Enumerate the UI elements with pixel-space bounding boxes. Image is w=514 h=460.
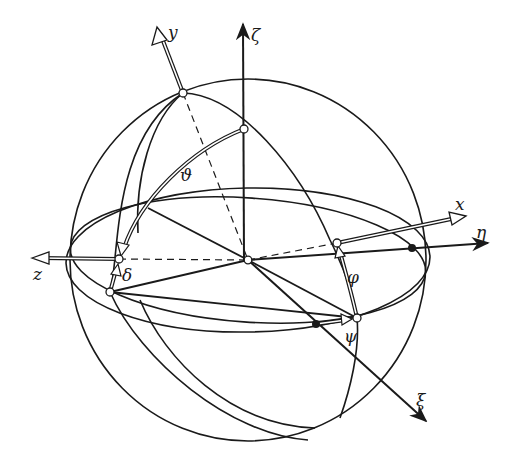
phi-label: φ — [347, 267, 359, 287]
theta-arc — [117, 129, 244, 256]
xi-node-dot — [312, 320, 320, 328]
xi-label: ξ — [416, 390, 427, 410]
zeta-axis — [243, 24, 244, 260]
y-label: y — [167, 22, 178, 42]
lower-right-point — [353, 314, 361, 322]
eta-label: η — [476, 222, 487, 242]
eta-axis — [248, 243, 488, 260]
meridian-inner — [140, 300, 315, 428]
lower-left-point — [106, 288, 114, 296]
xi-axis — [248, 260, 426, 421]
eta-node-dot — [408, 244, 416, 252]
delta-label: δ — [122, 265, 132, 285]
z-axis-point — [115, 255, 123, 263]
meridian-left — [138, 93, 183, 233]
origin-point — [244, 256, 252, 264]
z-label: z — [32, 264, 43, 284]
theta-label: ϑ — [180, 165, 192, 185]
dashed-z-projection — [119, 259, 248, 260]
x-label: x — [455, 194, 465, 214]
x-axis-point — [333, 239, 341, 247]
radius-upper-left — [148, 208, 248, 260]
euler-angle-sphere-diagram: ζ y x η z ξ ϑ δ φ ψ — [0, 0, 514, 460]
psi-label: ψ — [344, 326, 358, 346]
zeta-label: ζ — [251, 25, 262, 45]
y-axis-point — [179, 89, 187, 97]
meridian-right — [183, 93, 358, 418]
dashed-y-projection — [183, 93, 248, 260]
z-axis — [32, 252, 119, 264]
zeta-theta-point — [240, 125, 248, 133]
